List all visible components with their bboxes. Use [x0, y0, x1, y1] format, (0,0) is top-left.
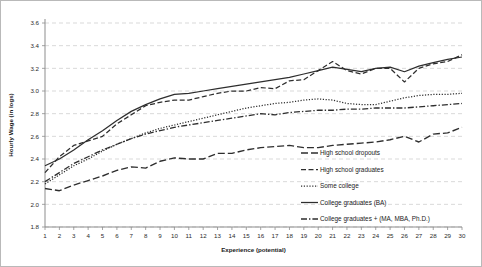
series-group	[45, 55, 462, 191]
x-tick-label: 24	[372, 232, 379, 239]
x-tick-label: 21	[329, 232, 336, 239]
x-tick-label: 4	[86, 232, 90, 239]
x-tick-label: 30	[459, 232, 466, 239]
x-tick-label: 13	[214, 232, 221, 239]
x-tick-label: 22	[344, 232, 351, 239]
y-tick-label: 2.2	[30, 178, 39, 185]
x-tick-label: 11	[186, 232, 193, 239]
y-tick-labels-group: 1.82.02.22.42.62.83.03.23.43.6	[30, 19, 39, 230]
x-tick-label: 17	[272, 232, 279, 239]
y-tick-label: 3.6	[30, 19, 39, 26]
y-tick-label: 1.8	[30, 223, 39, 230]
y-tick-label: 2.6	[30, 133, 39, 140]
plot-area: 1.82.02.22.42.62.83.03.23.43.6 123456789…	[1, 1, 482, 267]
legend-group: High school dropoutsHigh school graduate…	[301, 149, 430, 223]
x-tick-labels-group: 1234567891011121314151617181920212223242…	[43, 232, 466, 239]
legend-label-3: College graduates (BA)	[320, 199, 386, 207]
legend-label-4: College graduates + (MA, MBA, Ph.D.)	[320, 215, 430, 223]
x-tick-label: 19	[300, 232, 307, 239]
legend-label-1: High school graduates	[320, 166, 384, 174]
y-tick-label: 2.4	[30, 155, 39, 162]
x-tick-label: 28	[430, 232, 437, 239]
x-tick-label: 16	[257, 232, 264, 239]
series-line-2	[45, 93, 462, 184]
x-tick-label: 15	[243, 232, 250, 239]
x-tick-label: 25	[387, 232, 394, 239]
x-tick-label: 5	[101, 232, 105, 239]
x-tick-label: 18	[286, 232, 293, 239]
x-tick-label: 14	[228, 232, 235, 239]
x-tick-label: 6	[115, 232, 119, 239]
y-tick-label: 3.2	[30, 65, 39, 72]
legend-label-2: Some college	[320, 182, 359, 190]
series-line-1	[45, 55, 462, 173]
y-tick-label: 2.8	[30, 110, 39, 117]
legend-label-0: High school dropouts	[320, 149, 380, 157]
x-tick-label: 3	[72, 232, 76, 239]
chart-figure: 1.82.02.22.42.62.83.03.23.43.6 123456789…	[0, 0, 482, 267]
x-tick-label: 10	[171, 232, 178, 239]
x-tick-label: 12	[200, 232, 207, 239]
x-tick-label: 7	[130, 232, 134, 239]
y-axis-title: Hourly Wage (in logs)	[7, 93, 14, 156]
x-tick-label: 2	[58, 232, 62, 239]
x-tick-label: 1	[43, 232, 47, 239]
x-tick-label: 26	[401, 232, 408, 239]
x-axis-title: Experience (potential)	[221, 246, 286, 253]
x-tick-label: 9	[158, 232, 162, 239]
x-tick-label: 29	[444, 232, 451, 239]
x-tick-label: 20	[315, 232, 322, 239]
y-tick-label: 3.0	[30, 87, 39, 94]
y-tick-label: 3.4	[30, 42, 39, 49]
gridlines-group	[45, 23, 462, 227]
y-tick-label: 2.0	[30, 201, 39, 208]
series-line-4	[45, 103, 462, 181]
series-line-0	[45, 127, 462, 190]
x-tick-label: 23	[358, 232, 365, 239]
x-tick-label: 27	[415, 232, 422, 239]
x-tick-label: 8	[144, 232, 148, 239]
line-chart-svg: 1.82.02.22.42.62.83.03.23.43.6 123456789…	[1, 1, 482, 267]
